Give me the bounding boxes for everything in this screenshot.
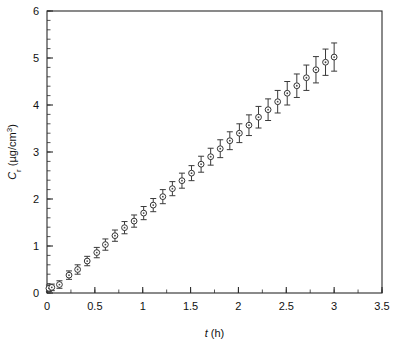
data-point-center-dot xyxy=(143,212,145,214)
data-point-center-dot xyxy=(152,204,154,206)
y-tick-label: 1 xyxy=(33,240,39,252)
data-point-center-dot xyxy=(286,92,288,94)
data-point-center-dot xyxy=(258,116,260,118)
data-point-center-dot xyxy=(277,101,279,103)
data-point-center-dot xyxy=(86,260,88,262)
chart-figure: 00.511.522.533.50123456t (h)Cr (µg/cm3) xyxy=(0,0,402,346)
data-point-center-dot xyxy=(68,274,70,276)
data-point-center-dot xyxy=(133,220,135,222)
x-tick-label: 1 xyxy=(140,300,146,312)
data-point-center-dot xyxy=(305,77,307,79)
y-tick-label: 2 xyxy=(33,193,39,205)
data-point-center-dot xyxy=(296,85,298,87)
plot-canvas: 00.511.522.533.50123456t (h)Cr (µg/cm3) xyxy=(0,0,402,346)
data-point-center-dot xyxy=(59,284,61,286)
data-point-center-dot xyxy=(238,132,240,134)
data-point-center-dot xyxy=(104,244,106,246)
data-series-cr xyxy=(46,43,337,292)
x-tick-label: 0.5 xyxy=(87,300,102,312)
y-tick-label: 6 xyxy=(33,5,39,17)
data-point-center-dot xyxy=(162,196,164,198)
data-point-center-dot xyxy=(200,163,202,165)
x-tick-label: 0 xyxy=(44,300,50,312)
data-point-center-dot xyxy=(171,188,173,190)
data-point-center-dot xyxy=(114,235,116,237)
data-point-center-dot xyxy=(210,156,212,158)
data-point-center-dot xyxy=(315,69,317,71)
data-point-center-dot xyxy=(124,227,126,229)
data-point-center-dot xyxy=(77,269,79,271)
data-point-center-dot xyxy=(96,252,98,254)
x-tick-label: 2.5 xyxy=(279,300,294,312)
data-point-center-dot xyxy=(51,286,53,288)
y-tick-label: 0 xyxy=(33,287,39,299)
data-point-center-dot xyxy=(325,61,327,63)
x-tick-label: 3 xyxy=(331,300,337,312)
y-tick-label: 4 xyxy=(33,99,39,111)
x-tick-label: 1.5 xyxy=(183,300,198,312)
y-axis-label: Cr (µg/cm3) xyxy=(5,124,23,180)
data-point-center-dot xyxy=(191,172,193,174)
data-point-center-dot xyxy=(229,140,231,142)
y-tick-label: 5 xyxy=(33,52,39,64)
x-tick-label: 3.5 xyxy=(374,300,389,312)
data-point-center-dot xyxy=(219,148,221,150)
x-axis-label: t (h) xyxy=(205,327,225,339)
data-point-center-dot xyxy=(181,180,183,182)
data-point-center-dot xyxy=(333,56,335,58)
data-point-center-dot xyxy=(248,124,250,126)
data-point-center-dot xyxy=(267,109,269,111)
y-tick-label: 3 xyxy=(33,146,39,158)
x-tick-label: 2 xyxy=(235,300,241,312)
